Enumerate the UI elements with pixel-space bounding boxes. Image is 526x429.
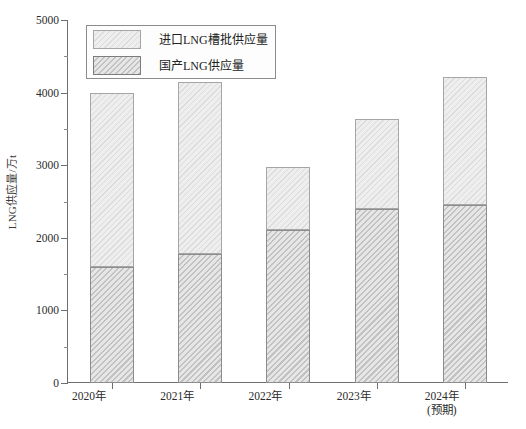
y-tick-label-0: 0 xyxy=(7,377,59,389)
y-tick-minor-3500 xyxy=(64,129,68,130)
bar-2020 xyxy=(90,93,134,382)
x-tick-3 xyxy=(377,382,378,389)
x-axis-label-2020-main: 2020年 xyxy=(72,390,106,402)
legend-swatch-domestic-icon xyxy=(93,56,141,75)
y-tick-minor-500 xyxy=(64,347,68,348)
y-tick-label-3000: 3000 xyxy=(7,159,59,171)
y-tick-label-2000: 2000 xyxy=(7,232,59,244)
bar-2022-import-segment xyxy=(266,167,310,230)
x-axis-label-2022: 2022年 xyxy=(220,389,310,403)
chart-figure: LNG供应量/万t 5000 4000 3000 2000 1000 0 xyxy=(0,0,526,429)
bar-2023 xyxy=(355,119,399,382)
x-axis-label-2023-main: 2023年 xyxy=(337,390,371,402)
legend-item-domestic[interactable]: 国产LNG供应量 xyxy=(87,52,275,78)
x-axis-label-2024-main: 2024年 xyxy=(425,390,459,402)
y-tick-label-4000: 4000 xyxy=(7,87,59,99)
bar-2024-import-segment xyxy=(443,77,487,206)
x-axis-label-2021: 2021年 xyxy=(132,389,222,403)
bar-2020-domestic-segment xyxy=(90,267,134,383)
legend-label-domestic: 国产LNG供应量 xyxy=(159,56,244,74)
y-tick-5000 xyxy=(61,20,68,21)
legend-swatch-import-icon xyxy=(93,30,141,49)
x-tick-0 xyxy=(112,382,113,389)
y-tick-minor-2500 xyxy=(64,202,68,203)
bar-2023-import-segment xyxy=(355,119,399,210)
bar-2020-import-segment xyxy=(90,93,134,268)
y-axis-label-container: LNG供应量/万t xyxy=(0,0,22,383)
bar-2023-domestic-segment xyxy=(355,209,399,383)
bar-2024-domestic-segment xyxy=(443,205,487,383)
x-axis-label-2021-main: 2021年 xyxy=(160,390,194,402)
y-tick-4000 xyxy=(61,93,68,94)
y-tick-1000 xyxy=(61,310,68,311)
x-axis-label-2023: 2023年 xyxy=(309,389,399,403)
x-axis-label-2024: 2024年 (预期) xyxy=(397,389,487,417)
bar-2021-import-segment xyxy=(178,82,222,254)
bar-2022-domestic-segment xyxy=(266,230,310,383)
bar-2022 xyxy=(266,167,310,382)
plot-area: 进口LNG槽批供应量 国产LNG供应量 xyxy=(67,20,508,383)
bar-2024 xyxy=(443,77,487,382)
legend: 进口LNG槽批供应量 国产LNG供应量 xyxy=(86,25,276,79)
x-tick-4 xyxy=(465,382,466,389)
x-tick-1 xyxy=(200,382,201,389)
y-tick-minor-1500 xyxy=(64,274,68,275)
x-axis-label-2022-main: 2022年 xyxy=(248,390,282,402)
y-tick-label-1000: 1000 xyxy=(7,304,59,316)
bar-2021 xyxy=(178,82,222,382)
legend-item-import[interactable]: 进口LNG槽批供应量 xyxy=(87,26,275,52)
y-tick-3000 xyxy=(61,165,68,166)
x-axis-label-2020: 2020年 xyxy=(44,389,134,403)
y-tick-0 xyxy=(61,383,68,384)
y-tick-minor-4500 xyxy=(64,56,68,57)
y-tick-label-5000: 5000 xyxy=(7,14,59,26)
y-tick-2000 xyxy=(61,238,68,239)
legend-label-import: 进口LNG槽批供应量 xyxy=(159,30,268,48)
bar-2021-domestic-segment xyxy=(178,254,222,383)
x-axis-label-2024-sub: (预期) xyxy=(397,403,487,417)
